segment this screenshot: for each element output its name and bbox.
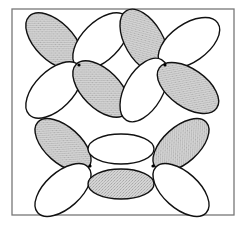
unshaded-lobe: [88, 134, 154, 164]
d-orbital-top-right: [110, 1, 229, 130]
nucleus-dot: [77, 63, 80, 66]
orbital-diagram: [0, 0, 243, 232]
pi-system-bottom: [26, 109, 219, 226]
nucleus-dot: [88, 164, 91, 167]
nucleus-dot: [163, 63, 166, 66]
shaded-lobe: [88, 169, 154, 199]
nucleus-dot: [151, 164, 154, 167]
